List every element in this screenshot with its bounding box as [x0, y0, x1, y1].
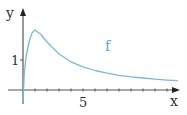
x-tick-label-5: 5 [79, 95, 87, 110]
chart: y x 5 1 f [0, 0, 187, 115]
x-axis-label: x [170, 93, 178, 109]
y-axis-arrow-icon [20, 8, 26, 16]
y-axis-label: y [5, 5, 14, 21]
y-tick-label-1: 1 [11, 53, 19, 68]
curve-label-f: f [105, 38, 112, 54]
